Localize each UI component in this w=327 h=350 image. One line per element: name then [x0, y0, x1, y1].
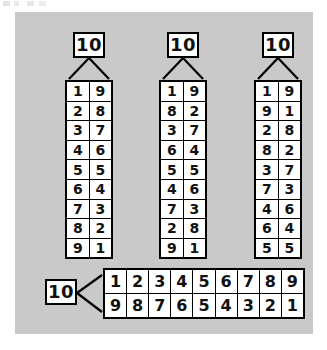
table-row: 3 7 [160, 121, 206, 141]
bond-table-2: 1 9 8 2 3 7 6 4 [159, 80, 207, 259]
table-row: 7 3 [160, 199, 206, 219]
bond-connector-3 [254, 58, 302, 80]
bond-cell: 7 [89, 121, 112, 141]
table-row-bottom: 9 8 7 6 5 4 3 2 1 [104, 294, 304, 319]
table-row: 7 3 [255, 179, 301, 199]
page-edge-artifact [3, 1, 49, 6]
table-row: 1 9 [160, 81, 206, 101]
table-row: 2 8 [66, 101, 112, 121]
bond-cell: 1 [89, 238, 112, 258]
bond-cell: 1 [104, 269, 127, 294]
bond-cell: 1 [183, 238, 206, 258]
table-row: 3 7 [255, 160, 301, 180]
bond-cell: 3 [237, 294, 259, 319]
bond-cell: 2 [183, 101, 206, 121]
bond-cell: 7 [278, 160, 301, 180]
table-row: 9 1 [255, 101, 301, 121]
bond-cell: 2 [127, 269, 149, 294]
table-row: 5 5 [66, 160, 112, 180]
bond-cell: 4 [160, 179, 183, 199]
total-box-1: 10 [73, 32, 105, 58]
bond-cell: 8 [255, 140, 278, 160]
table-row: 8 2 [66, 219, 112, 239]
bond-cell: 8 [259, 269, 281, 294]
bond-cell: 5 [255, 238, 278, 258]
bond-cell: 9 [183, 81, 206, 101]
bond-cell: 6 [66, 179, 89, 199]
bond-connector-horizontal [77, 272, 103, 314]
table-row: 4 6 [66, 140, 112, 160]
bond-cell: 7 [255, 179, 278, 199]
total-box-3: 10 [262, 32, 294, 58]
bond-cell: 7 [237, 269, 259, 294]
bond-cell: 4 [215, 294, 237, 319]
bond-cell: 8 [66, 219, 89, 239]
bond-cell: 5 [183, 160, 206, 180]
bond-cell: 7 [160, 199, 183, 219]
bond-connector-2 [159, 58, 207, 80]
table-row: 6 4 [255, 219, 301, 239]
bond-cell: 8 [127, 294, 149, 319]
bond-group-3: 10 1 9 9 1 2 8 [230, 32, 326, 254]
bond-cell: 9 [255, 101, 278, 121]
bond-cell: 5 [89, 160, 112, 180]
table-row: 4 6 [255, 199, 301, 219]
figure-panel: 10 1 9 2 8 3 7 [15, 12, 313, 334]
bond-cell: 8 [183, 219, 206, 239]
bond-cell: 7 [149, 294, 171, 319]
bond-group-2: 10 1 9 8 2 3 7 [135, 32, 231, 254]
bond-cell: 2 [255, 121, 278, 141]
table-row: 1 9 [66, 81, 112, 101]
table-row: 8 2 [160, 101, 206, 121]
bond-connector-1 [65, 58, 113, 80]
table-row: 2 8 [255, 121, 301, 141]
bond-cell: 6 [278, 199, 301, 219]
bond-cell: 3 [66, 121, 89, 141]
bond-cell: 6 [89, 140, 112, 160]
bond-cell: 8 [278, 121, 301, 141]
bond-group-horizontal: 10 1 2 3 4 5 6 7 8 9 [27, 264, 305, 322]
bond-cell: 4 [171, 269, 193, 294]
bond-cell: 9 [281, 269, 304, 294]
bond-cell: 9 [278, 81, 301, 101]
bond-cell: 4 [89, 179, 112, 199]
bond-cell: 3 [160, 121, 183, 141]
bond-cell: 3 [255, 160, 278, 180]
bond-cell: 4 [183, 140, 206, 160]
bond-cell: 4 [66, 140, 89, 160]
bond-cell: 6 [255, 219, 278, 239]
table-row: 9 1 [66, 238, 112, 258]
table-row: 2 8 [160, 219, 206, 239]
bond-cell: 5 [278, 238, 301, 258]
bond-cell: 3 [89, 199, 112, 219]
bond-cell: 3 [278, 179, 301, 199]
bond-cell: 4 [278, 219, 301, 239]
number-bond-figure: 10 1 9 2 8 3 7 [0, 0, 327, 350]
bond-cell: 2 [278, 140, 301, 160]
table-row: 1 9 [255, 81, 301, 101]
bond-table-1: 1 9 2 8 3 7 4 6 [65, 80, 113, 259]
table-row: 6 4 [160, 140, 206, 160]
bond-cell: 8 [160, 101, 183, 121]
bond-cell: 8 [89, 101, 112, 121]
table-row: 9 1 [160, 238, 206, 258]
bond-cell: 9 [89, 81, 112, 101]
bond-cell: 7 [66, 199, 89, 219]
bond-cell: 3 [149, 269, 171, 294]
bond-cell: 9 [160, 238, 183, 258]
total-box-2: 10 [167, 32, 199, 58]
bond-group-1: 10 1 9 2 8 3 7 [41, 32, 137, 254]
bond-cell: 3 [183, 199, 206, 219]
bond-cell: 6 [183, 179, 206, 199]
bond-cell: 6 [171, 294, 193, 319]
bond-cell: 2 [160, 219, 183, 239]
table-row-top: 1 2 3 4 5 6 7 8 9 [104, 269, 304, 294]
total-box-horizontal: 10 [45, 279, 77, 305]
bond-cell: 2 [259, 294, 281, 319]
bond-cell: 1 [255, 81, 278, 101]
table-row: 3 7 [66, 121, 112, 141]
table-row: 6 4 [66, 179, 112, 199]
bond-cell: 7 [183, 121, 206, 141]
bond-table-horizontal: 1 2 3 4 5 6 7 8 9 9 8 7 6 [103, 268, 305, 319]
bond-cell: 1 [160, 81, 183, 101]
